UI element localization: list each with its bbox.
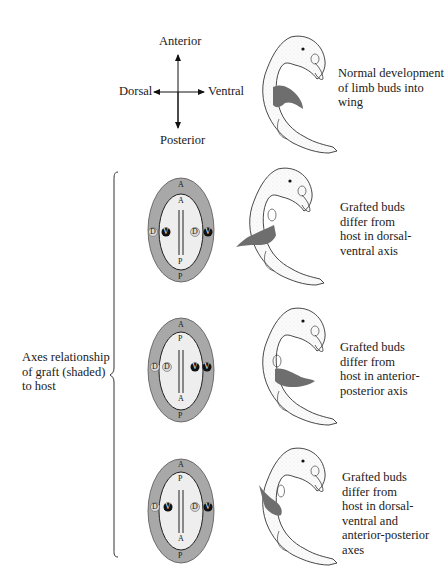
dorsal-marker: D — [192, 502, 198, 511]
ventral-marker: V — [165, 502, 171, 511]
ventral-marker: V — [205, 502, 211, 511]
panel-3-caption: Grafted buds differ from host in dorsal-… — [342, 470, 429, 557]
inner-bottom-label: A — [178, 534, 184, 543]
dorsal-marker: D — [152, 502, 158, 511]
outer-bottom-label: P — [178, 551, 182, 560]
inner-top-label: P — [178, 474, 182, 483]
outer-top-label: A — [178, 460, 184, 469]
